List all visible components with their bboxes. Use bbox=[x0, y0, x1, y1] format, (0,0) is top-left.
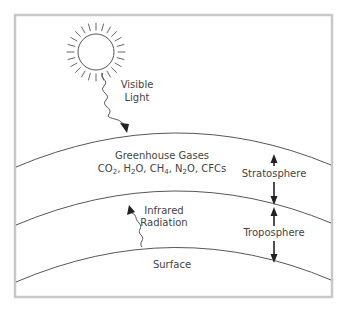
surface-label: Surface bbox=[153, 259, 191, 270]
infrared-radiation-label-line2: Radiation bbox=[140, 217, 187, 228]
troposphere-label: Troposphere bbox=[242, 227, 304, 238]
stratosphere-label: Stratosphere bbox=[242, 168, 307, 179]
infrared-radiation-label-line1: Infrared bbox=[144, 205, 183, 216]
visible-light-label-line1: Visible bbox=[121, 79, 154, 90]
greenhouse-effect-diagram: Visible Light Greenhouse Gases CO2, H2O,… bbox=[0, 0, 344, 314]
visible-light-label-line2: Light bbox=[125, 92, 150, 103]
greenhouse-gases-label: Greenhouse Gases bbox=[115, 150, 209, 161]
